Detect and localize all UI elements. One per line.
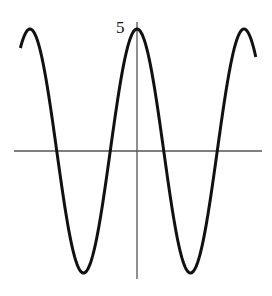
cosine-plot: 5 [0,0,272,296]
y-max-label: 5 [116,18,125,37]
